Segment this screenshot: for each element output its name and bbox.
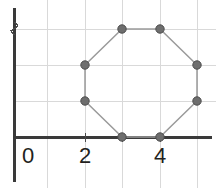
vertex-point [118,25,126,33]
octagon-outline [85,29,197,137]
graph-figure: 0 2 4 [0,0,216,188]
x-axis-tick-label-4: 4 [154,145,166,167]
vertex-point [193,97,201,105]
x-axis-tick-label-0: 0 [22,145,34,167]
octagon-shape [81,25,201,141]
axis-lines [13,8,212,182]
vertex-point [81,61,89,69]
vertex-point [81,97,89,105]
x-axis-tick-label-2: 2 [79,145,91,167]
grid-lines-horizontal [14,30,216,102]
vertex-point [118,133,126,141]
vertex-point [193,61,201,69]
vertex-point [156,25,164,33]
vertex-point [156,133,164,141]
